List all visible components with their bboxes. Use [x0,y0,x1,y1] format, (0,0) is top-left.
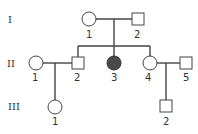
label-II-4: 4 [145,72,151,83]
label-II-1: 1 [32,72,38,83]
pedigree-chart: I II III 1 2 1 2 3 4 5 1 2 [0,0,198,134]
individual-II-5-male [180,57,192,69]
label-II-2: 2 [74,72,80,83]
individual-II-2-male [72,57,84,69]
label-III-2: 2 [163,116,169,127]
label-I-1: 1 [86,29,92,40]
label-III-1: 1 [52,116,58,127]
label-I-2: 2 [134,29,140,40]
generation-label-2: II [7,58,15,69]
individual-II-1-female [29,56,43,70]
individual-III-2-male [160,100,172,112]
label-II-5: 5 [183,72,189,83]
individual-I-1-female [82,12,96,26]
individual-I-2-male [132,13,144,25]
individual-II-4-female [143,56,157,70]
generation-label-3: III [8,101,20,112]
generation-label-1: I [8,14,12,25]
label-II-3: 3 [111,72,117,83]
individual-II-3-affected-female [107,56,121,70]
individual-III-1-female [48,100,62,114]
